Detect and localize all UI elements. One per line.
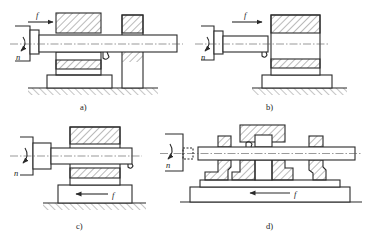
workpiece-upper-section xyxy=(56,13,101,33)
workpiece-lower-section xyxy=(70,168,120,178)
rotation-arrow-icon xyxy=(168,144,172,159)
workpiece-lower-right xyxy=(272,160,293,180)
workpiece-lower-left xyxy=(232,160,255,180)
table xyxy=(190,187,350,202)
panel-a: n f a) xyxy=(10,10,183,112)
boring-bar xyxy=(39,35,177,52)
ground-hatch xyxy=(252,88,347,95)
left-guide-bushing-bottom xyxy=(205,160,231,180)
workpiece-upper-section xyxy=(70,127,120,144)
left-guide-bushing-top xyxy=(218,136,231,147)
feed-symbol: f xyxy=(36,10,40,20)
cutting-tool xyxy=(103,52,109,59)
rear-support-bushing-top xyxy=(122,15,143,33)
panel-label: d) xyxy=(266,221,273,231)
machining-diagram: n f a) n f b) n xyxy=(0,0,367,245)
panel-label: b) xyxy=(266,102,273,112)
rotation-symbol: n xyxy=(166,160,170,170)
ground-hatch xyxy=(28,88,158,95)
panel-label: c) xyxy=(76,221,83,231)
workpiece-lower-section xyxy=(271,59,320,68)
right-guide-bushing-bottom xyxy=(309,160,326,180)
panel-label: a) xyxy=(80,102,87,112)
panel-d: n f d) xyxy=(160,125,362,231)
workpiece-base xyxy=(262,75,332,88)
rotation-arrow-icon xyxy=(23,148,27,163)
cutting-tool xyxy=(262,52,267,57)
workpiece-lower-section xyxy=(56,60,101,69)
workpiece-cavity-top xyxy=(255,135,272,147)
workpiece-cavity-bottom xyxy=(255,160,272,180)
feed-symbol: f xyxy=(244,10,248,20)
ground-hatch xyxy=(43,203,146,210)
panel-c: n f c) xyxy=(10,127,146,231)
workpiece-upper-section xyxy=(271,15,320,33)
cutting-tool xyxy=(128,164,133,168)
rotation-arrow-icon xyxy=(21,37,25,51)
rotation-symbol: n xyxy=(201,52,205,62)
right-guide-bushing-top xyxy=(309,136,323,147)
panel-b: n f b) xyxy=(195,10,347,112)
rotation-symbol: n xyxy=(14,168,18,178)
rear-support-bushing-bottom xyxy=(122,52,143,62)
spindle-nose xyxy=(214,31,223,54)
fixture-plate xyxy=(200,180,340,187)
rotation-symbol: n xyxy=(16,52,20,62)
spindle-nose xyxy=(30,30,39,54)
workpiece-base xyxy=(47,75,112,88)
